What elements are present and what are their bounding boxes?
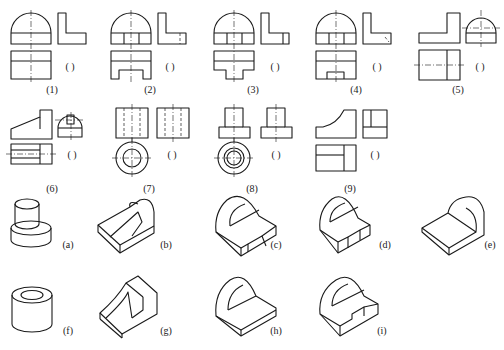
front-view	[316, 13, 356, 44]
answer-blank[interactable]: ( )	[65, 61, 74, 73]
front-view	[116, 104, 148, 142]
problem-label: (1)	[46, 84, 58, 96]
isometric-d: (d)	[320, 197, 391, 253]
problem-label: (3)	[247, 84, 259, 96]
problem-5: ( ) (5)	[414, 10, 500, 96]
answer-blank[interactable]: ( )	[271, 149, 280, 161]
answer-blank[interactable]: ( )	[165, 61, 174, 73]
answer-blank[interactable]: ( )	[372, 61, 381, 73]
problem-7: ( ) (7)	[112, 104, 189, 195]
isometric-g: (g)	[100, 276, 172, 338]
side-view	[261, 104, 292, 142]
answer-blank[interactable]: ( )	[270, 61, 279, 73]
answer-blank[interactable]: ( )	[475, 61, 484, 73]
answer-blank[interactable]: ( )	[67, 149, 76, 161]
isometric-label: (b)	[160, 239, 172, 251]
side-view	[363, 13, 391, 44]
isometric-h: (h)	[216, 277, 282, 337]
isometric-label: (c)	[270, 239, 281, 251]
side-view	[462, 10, 500, 47]
problem-1: ( ) (1)	[11, 10, 86, 96]
answer-blank[interactable]: ( )	[370, 149, 379, 161]
top-view	[6, 144, 56, 164]
problem-9: ( ) (9)	[316, 110, 387, 195]
problem-3: ( ) (3)	[214, 10, 289, 96]
problem-4: ( ) (4)	[316, 10, 391, 96]
isometric-b: (b)	[98, 199, 172, 253]
front-view	[419, 13, 460, 43]
problem-2: ( ) (2)	[111, 10, 186, 96]
top-view	[214, 138, 254, 178]
side-view	[157, 104, 189, 142]
front-view	[316, 110, 356, 138]
isometric-label: (a)	[62, 239, 73, 251]
isometric-label: (h)	[270, 325, 282, 337]
isometric-label: (e)	[484, 239, 495, 251]
isometric-i: (i)	[320, 277, 387, 337]
side-view	[261, 13, 289, 44]
isometric-e: (e)	[422, 197, 496, 255]
isometric-c: (c)	[216, 196, 282, 256]
top-view	[414, 50, 465, 80]
isometric-a: (a)	[11, 199, 74, 251]
isometric-f: (f)	[12, 287, 73, 337]
problem-label: (4)	[350, 84, 362, 96]
isometric-label: (d)	[379, 239, 391, 251]
problem-6: ( ) (6)	[6, 110, 85, 195]
problem-label: (7)	[143, 183, 155, 195]
problem-8: ( ) (8)	[214, 104, 292, 195]
top-view	[112, 138, 152, 178]
problem-label: (8)	[246, 183, 258, 195]
answer-blank[interactable]: ( )	[167, 149, 176, 161]
front-view	[11, 110, 52, 139]
problem-label: (2)	[144, 84, 156, 96]
isometric-label: (i)	[377, 325, 386, 337]
front-view	[11, 13, 51, 44]
problem-label: (6)	[46, 183, 58, 195]
side-view	[363, 110, 387, 138]
front-view	[111, 13, 151, 44]
side-view	[58, 13, 86, 44]
front-view	[219, 104, 250, 142]
front-view	[214, 13, 254, 44]
isometric-label: (g)	[160, 325, 172, 337]
isometric-label: (f)	[63, 325, 73, 337]
top-view	[316, 145, 356, 171]
orthographic-matching-figure: ( ) (1) ( ) (2)	[0, 0, 504, 350]
problem-label: (5)	[452, 84, 464, 96]
side-view	[55, 112, 85, 141]
problem-label: (9)	[344, 183, 356, 195]
side-view	[158, 13, 186, 44]
